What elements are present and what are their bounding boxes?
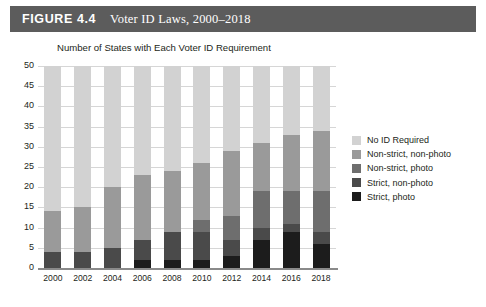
bar-segment	[283, 66, 300, 135]
x-axis-tick-label: 2018	[306, 273, 336, 283]
x-axis-tick-label: 2010	[187, 273, 217, 283]
x-axis-tick-label: 2016	[276, 273, 306, 283]
bar-segment	[223, 151, 240, 216]
bar-2012	[223, 66, 240, 268]
y-axis-tick-label: 5	[8, 242, 34, 252]
bar-segment	[164, 66, 181, 171]
bar-2008	[164, 66, 181, 268]
y-axis-tick-label: 35	[8, 121, 34, 131]
bar-2002	[74, 66, 91, 268]
y-axis-tick-label: 40	[8, 100, 34, 110]
bar-segment	[253, 228, 270, 240]
legend-item[interactable]: Strict, photo	[352, 192, 451, 202]
bar-segment	[164, 232, 181, 260]
legend-item[interactable]: No ID Required	[352, 135, 451, 145]
figure-banner: FIGURE 4.4 Voter ID Laws, 2000–2018	[10, 6, 476, 32]
bar-2004	[104, 66, 121, 268]
bar-segment	[104, 66, 121, 187]
bar-segment	[134, 240, 151, 260]
legend-swatch-icon	[352, 178, 361, 187]
bar-segment	[134, 66, 151, 175]
bar-segment	[283, 191, 300, 223]
bar-segment	[134, 175, 151, 240]
bar-segment	[253, 191, 270, 227]
plot-area	[38, 66, 336, 268]
bar-segment	[193, 66, 210, 163]
legend-swatch-icon	[352, 192, 361, 201]
bar-segment	[74, 252, 91, 268]
bar-2000	[44, 66, 61, 268]
bar-segment	[313, 66, 330, 131]
legend-swatch-icon	[352, 150, 361, 159]
y-axis-tick-label: 50	[8, 60, 34, 70]
bar-segment	[193, 232, 210, 260]
legend-swatch-icon	[352, 136, 361, 145]
legend-item[interactable]: Strict, non-photo	[352, 178, 451, 188]
x-axis-tick-label: 2008	[157, 273, 187, 283]
bar-segment	[104, 248, 121, 268]
y-axis-tick-label: 0	[8, 262, 34, 272]
bar-segment	[313, 244, 330, 268]
bar-segment	[74, 66, 91, 207]
bar-segment	[44, 211, 61, 251]
y-axis-tick-label: 45	[8, 80, 34, 90]
x-axis-line	[38, 268, 338, 270]
bar-segment	[193, 163, 210, 220]
y-axis-tick-label: 20	[8, 181, 34, 191]
legend-item-label: Strict, photo	[367, 192, 415, 202]
figure-number-label: FIGURE 4.4	[22, 12, 96, 26]
bar-2006	[134, 66, 151, 268]
bar-segment	[164, 260, 181, 268]
y-axis-tick-label: 25	[8, 161, 34, 171]
bar-segment	[253, 240, 270, 268]
x-axis-tick-label: 2012	[217, 273, 247, 283]
bar-segment	[223, 216, 240, 240]
legend-item[interactable]: Non-strict, non-photo	[352, 149, 451, 159]
bar-segment	[44, 66, 61, 211]
bar-segment	[74, 207, 91, 251]
bar-segment	[223, 240, 240, 256]
bar-segment	[193, 220, 210, 232]
chart-title: Number of States with Each Voter ID Requ…	[57, 42, 271, 53]
y-axis-tick-label: 10	[8, 222, 34, 232]
bar-2018	[313, 66, 330, 268]
bar-segment	[104, 187, 121, 248]
bar-2014	[253, 66, 270, 268]
legend-item-label: Strict, non-photo	[367, 178, 433, 188]
y-axis-tick-label: 30	[8, 141, 34, 151]
bar-segment	[253, 66, 270, 143]
bar-segment	[223, 66, 240, 151]
bar-2016	[283, 66, 300, 268]
x-axis-tick-label: 2002	[68, 273, 98, 283]
bar-segment	[193, 260, 210, 268]
legend-item[interactable]: Non-strict, photo	[352, 163, 451, 173]
bar-segment	[313, 191, 330, 231]
bar-segment	[164, 171, 181, 232]
bar-segment	[313, 131, 330, 192]
bar-segment	[283, 232, 300, 268]
figure-title: Voter ID Laws, 2000–2018	[110, 12, 251, 27]
x-axis-tick-label: 2014	[247, 273, 277, 283]
x-axis-tick-label: 2006	[127, 273, 157, 283]
bar-segment	[313, 232, 330, 244]
chart-legend: No ID RequiredNon-strict, non-photoNon-s…	[352, 135, 451, 206]
bar-segment	[283, 135, 300, 192]
legend-item-label: No ID Required	[367, 135, 429, 145]
x-axis-tick-label: 2004	[98, 273, 128, 283]
bar-segment	[253, 143, 270, 191]
bar-segment	[223, 256, 240, 268]
y-axis-tick-label: 15	[8, 201, 34, 211]
legend-item-label: Non-strict, photo	[367, 163, 433, 173]
legend-swatch-icon	[352, 164, 361, 173]
legend-item-label: Non-strict, non-photo	[367, 149, 451, 159]
bar-segment	[134, 260, 151, 268]
bar-segment	[44, 252, 61, 268]
x-axis-tick-label: 2000	[38, 273, 68, 283]
bar-segment	[283, 224, 300, 232]
bar-2010	[193, 66, 210, 268]
page-margin	[0, 0, 6, 307]
